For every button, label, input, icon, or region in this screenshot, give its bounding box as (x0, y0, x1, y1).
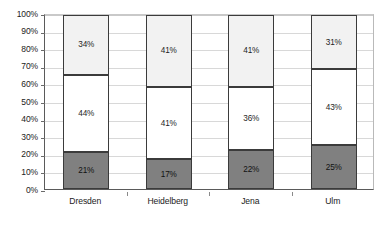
y-axis-tick-mark (41, 68, 45, 69)
bar-stack: 22%36%41% (228, 13, 274, 189)
bar-segment: 21% (63, 152, 109, 189)
x-axis-category-label: Heidelberg (127, 196, 210, 207)
bar-segment-value-label: 22% (243, 165, 259, 174)
y-axis-tick-label: 10% (21, 168, 38, 177)
y-axis-tick-label: 90% (21, 27, 38, 36)
bar-segment-value-label: 41% (161, 119, 177, 128)
bar-segment: 41% (146, 15, 192, 87)
bar-segment-value-label: 43% (326, 103, 342, 112)
x-axis-category-label: Ulm (292, 196, 375, 207)
bar-segment-value-label: 41% (161, 46, 177, 55)
bar-segment: 31% (311, 15, 357, 70)
y-axis-tick-mark (41, 156, 45, 157)
bar-stack: 17%41%41% (146, 13, 192, 189)
bar-group: 25%43%31% (311, 13, 357, 189)
y-axis-tick-mark (41, 173, 45, 174)
y-axis: 0%10%20%30%40%50%60%70%80%90%100% (0, 0, 41, 225)
plot-area: 21%44%34%17%41%41%22%36%41%25%43%31% (44, 14, 374, 190)
y-axis-tick-mark (41, 191, 45, 192)
bar-stack: 25%43%31% (311, 13, 357, 189)
bar-segment: 34% (63, 15, 109, 75)
bar-segment-value-label: 44% (78, 109, 94, 118)
y-axis-tick-label: 70% (21, 62, 38, 71)
bar-segment-value-label: 41% (243, 46, 259, 55)
bar-group: 21%44%34% (63, 13, 109, 189)
y-axis-tick-mark (41, 121, 45, 122)
y-axis-tick-mark (41, 33, 45, 34)
x-axis-tick-mark (292, 192, 293, 196)
y-axis-tick-mark (41, 50, 45, 51)
y-axis-tick-label: 80% (21, 45, 38, 54)
bar-segment-value-label: 36% (243, 114, 259, 123)
y-axis-tick-label: 30% (21, 133, 38, 142)
bars-layer: 21%44%34%17%41%41%22%36%41%25%43%31% (45, 15, 373, 189)
y-axis-tick-mark (41, 85, 45, 86)
bar-segment: 36% (228, 87, 274, 150)
bar-segment: 41% (146, 87, 192, 159)
bar-segment: 17% (146, 159, 192, 189)
x-axis-tick-mark (209, 192, 210, 196)
bar-stack: 21%44%34% (63, 13, 109, 189)
bar-segment-value-label: 34% (78, 40, 94, 49)
y-axis-tick-label: 40% (21, 115, 38, 124)
x-axis: DresdenHeidelbergJenaUlm (44, 196, 374, 216)
y-axis-tick-mark (41, 15, 45, 16)
bar-segment-value-label: 17% (161, 170, 177, 179)
bar-group: 22%36%41% (228, 13, 274, 189)
y-axis-tick-mark (41, 103, 45, 104)
bar-segment: 25% (311, 145, 357, 189)
x-axis-category-label: Jena (209, 196, 292, 207)
bar-segment: 41% (228, 15, 274, 87)
x-axis-tick-mark (127, 192, 128, 196)
bar-segment: 44% (63, 75, 109, 152)
y-axis-tick-mark (41, 138, 45, 139)
x-axis-category-label: Dresden (44, 196, 127, 207)
bar-segment-value-label: 25% (326, 163, 342, 172)
y-axis-tick-label: 100% (17, 10, 38, 19)
y-axis-tick-label: 0% (26, 186, 38, 195)
bar-segment-value-label: 21% (78, 166, 94, 175)
y-axis-tick-label: 20% (21, 150, 38, 159)
y-axis-tick-label: 50% (21, 98, 38, 107)
bar-segment: 22% (228, 150, 274, 189)
stacked-bar-chart: 0%10%20%30%40%50%60%70%80%90%100% 21%44%… (0, 0, 386, 225)
bar-segment-value-label: 31% (326, 38, 342, 47)
bar-group: 17%41%41% (146, 13, 192, 189)
y-axis-tick-label: 60% (21, 80, 38, 89)
bar-segment: 43% (311, 69, 357, 145)
